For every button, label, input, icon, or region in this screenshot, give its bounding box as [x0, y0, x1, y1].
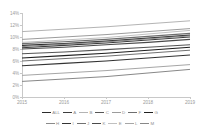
legend-swatch-icon: [42, 112, 51, 113]
legend-swatch-icon: [140, 123, 149, 124]
legend-label: D: [122, 110, 125, 115]
legend-label: G: [155, 110, 158, 115]
legend-swatch-icon: [79, 112, 88, 113]
legend-item-h[interactable]: H: [46, 121, 59, 126]
legend-label: L: [135, 121, 137, 126]
legend-label: K: [102, 121, 105, 126]
legend-item-e[interactable]: E: [108, 121, 121, 126]
x-tick-mark: [148, 97, 149, 99]
legend-swatch-icon: [62, 123, 71, 124]
legend-swatch-icon: [95, 112, 104, 113]
legend-label: F: [139, 110, 142, 115]
legend-swatch-icon: [125, 123, 134, 124]
legend-row: HIJKELM: [0, 118, 200, 129]
legend-label: ALL: [52, 110, 60, 115]
series-line-j: [22, 50, 190, 61]
x-tick-mark: [64, 97, 65, 99]
legend-swatch-icon: [63, 112, 72, 113]
x-tick-label: 2015: [17, 100, 27, 106]
legend-swatch-icon: [46, 123, 55, 124]
legend-label: I: [72, 121, 73, 126]
y-tick-mark: [20, 37, 22, 38]
x-tick-label: 2017: [101, 100, 111, 106]
legend-label: C: [106, 110, 109, 115]
legend-label: J: [87, 121, 89, 126]
y-tick-label: 8%: [13, 47, 19, 52]
x-tick-label: 2019: [185, 100, 195, 106]
plot-area: [22, 13, 190, 97]
series-line-all: [22, 35, 190, 45]
legend-item-k[interactable]: K: [92, 121, 105, 126]
legend-swatch-icon: [92, 123, 101, 124]
legend-label: E: [119, 121, 122, 126]
legend-item-f[interactable]: F: [128, 110, 141, 115]
legend-item-a[interactable]: A: [63, 110, 76, 115]
x-tick-label: 2018: [143, 100, 153, 106]
legend-item-i[interactable]: I: [62, 121, 73, 126]
legend-item-c[interactable]: C: [95, 110, 108, 115]
x-tick-mark: [106, 97, 107, 99]
y-tick-label: 4%: [13, 71, 19, 76]
legend-label: M: [151, 121, 155, 126]
x-tick-mark: [190, 97, 191, 99]
y-tick-mark: [20, 13, 22, 14]
y-tick-mark: [20, 73, 22, 74]
y-tick-label: 10%: [10, 35, 19, 40]
legend-item-d[interactable]: D: [112, 110, 125, 115]
y-tick-label: 12%: [10, 23, 19, 28]
y-tick-mark: [20, 85, 22, 86]
legend-swatch-icon: [128, 112, 137, 113]
series-lines: [22, 13, 190, 97]
line-chart: 0%2%4%6%8%10%12%14% 20152016201720182019…: [0, 0, 200, 139]
x-tick-label: 2016: [59, 100, 69, 106]
legend-item-m[interactable]: M: [140, 121, 154, 126]
legend-label: B: [89, 110, 92, 115]
legend-item-all[interactable]: ALL: [42, 110, 60, 115]
legend-item-b[interactable]: B: [79, 110, 92, 115]
y-axis: 0%2%4%6%8%10%12%14%: [0, 8, 20, 102]
y-tick-label: 14%: [10, 11, 19, 16]
series-line-m: [22, 69, 190, 81]
x-tick-mark: [22, 97, 23, 99]
chart-legend: ALLABCDFG HIJKELM: [0, 107, 200, 137]
y-tick-label: 0%: [13, 95, 19, 100]
legend-item-g[interactable]: G: [144, 110, 158, 115]
y-tick-label: 2%: [13, 83, 19, 88]
y-tick-mark: [20, 61, 22, 62]
legend-item-l[interactable]: L: [125, 121, 138, 126]
legend-label: H: [56, 121, 59, 126]
legend-swatch-icon: [108, 123, 117, 124]
y-tick-label: 6%: [13, 59, 19, 64]
legend-swatch-icon: [112, 112, 121, 113]
legend-swatch-icon: [144, 112, 153, 113]
legend-item-j[interactable]: J: [77, 121, 89, 126]
legend-swatch-icon: [77, 123, 86, 124]
series-line-l: [22, 65, 190, 76]
y-tick-mark: [20, 25, 22, 26]
y-tick-mark: [20, 49, 22, 50]
legend-row: ALLABCDFG: [0, 107, 200, 118]
legend-label: A: [73, 110, 76, 115]
